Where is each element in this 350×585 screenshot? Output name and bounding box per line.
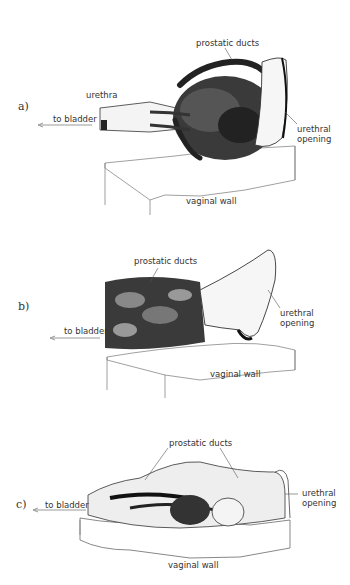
panel-a-illustration [0,0,350,220]
label-to-bladder: to bladder [53,114,97,124]
label-urethral-line1: urethral [302,488,336,498]
label-urethral-opening: urethral opening [297,124,331,144]
label-vaginal-wall: vaginal wall [168,560,219,570]
label-urethral-opening: urethral opening [302,488,336,508]
label-prostatic-ducts: prostatic ducts [196,38,259,48]
label-prostatic-ducts: prostatic ducts [169,438,232,448]
label-to-bladder: to bladder [45,500,89,510]
label-vaginal-wall: vaginal wall [210,369,261,379]
panel-label-c: c) [16,498,26,511]
panel-c: c) prostatic ducts to bladder urethral o… [0,400,350,585]
label-to-bladder: to bladder [64,326,108,336]
label-urethral-line1: urethral [280,308,314,318]
label-urethral-line1: urethral [297,124,331,134]
label-prostatic-ducts: prostatic ducts [134,256,197,266]
label-urethral-line2: opening [302,498,336,508]
panel-b: b) prostatic ducts to bladder urethral o… [0,220,350,400]
label-urethral-line2: opening [297,134,331,144]
panel-c-illustration [0,400,350,585]
panel-a: a) prostatic ducts urethra to bladder ur… [0,0,350,220]
label-vaginal-wall: vaginal wall [186,196,237,206]
label-urethral-line2: opening [280,318,314,328]
label-urethra: urethra [86,90,117,100]
panel-label-a: a) [18,100,29,113]
panel-label-b: b) [18,300,29,313]
label-urethral-opening: urethral opening [280,308,314,328]
